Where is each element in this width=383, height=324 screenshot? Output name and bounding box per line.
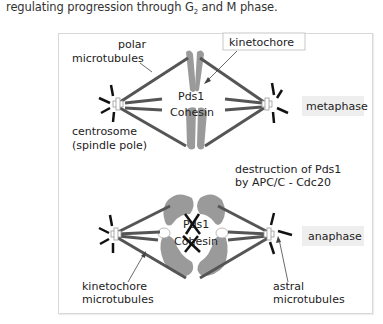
anaphase-label: anaphase [308, 230, 362, 243]
label-kinetochore-mt-1: kinetochore [82, 280, 147, 293]
destruction-text-1: destruction of Pds1 [235, 163, 341, 176]
label-polar: polar [118, 38, 147, 51]
label-centrosome: centrosome [72, 125, 137, 138]
left-centrosome [99, 85, 123, 122]
anaphase-right-centrosome [264, 213, 292, 254]
label-kinetochore-mt-2: microtubules [82, 293, 154, 306]
metaphase-label: metaphase [306, 100, 368, 113]
label-kinetochore: kinetochore [229, 36, 294, 49]
label-astral-2: microtubules [273, 293, 345, 306]
anaphase-spindle: Pds1 Cohesin kinetochore microtubules as… [82, 194, 364, 306]
mitosis-diagram: polar microtubules kinetochore Pds1 Cohe… [0, 0, 383, 324]
right-centrosome [262, 83, 288, 123]
anaphase-left-centrosome [99, 215, 121, 253]
metaphase-spindle: polar microtubules kinetochore Pds1 Cohe… [72, 33, 368, 152]
label-cohesin: Cohesin [170, 106, 214, 119]
label-spindle-pole: (spindle pole) [72, 139, 147, 152]
label-astral-1: astral [273, 280, 304, 293]
label-pds1: Pds1 [178, 90, 204, 103]
destruction-text-2: by APC/C - Cdc20 [235, 176, 331, 189]
label-microtubules: microtubules [72, 52, 144, 65]
